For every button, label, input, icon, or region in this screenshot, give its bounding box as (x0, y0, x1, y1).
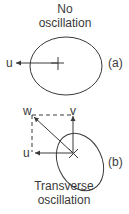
panel-b-u-label: u (23, 146, 30, 160)
panel-b-w-label: w (22, 104, 32, 118)
panel-b: w v u (b) Transverse oscillation (22, 104, 123, 207)
panel-b-label: (b) (108, 155, 123, 169)
panel-a-label: (a) (108, 56, 123, 70)
panel-a-title-line2: oscillation (39, 16, 92, 30)
circular-cross-section (30, 37, 102, 95)
panel-a: No oscillation u (a) (6, 2, 123, 95)
panel-b-v-label: v (70, 104, 76, 118)
panel-b-caption-line2: oscillation (38, 193, 91, 207)
panel-a-u-label: u (6, 56, 13, 70)
panel-b-caption-line1: Transverse (34, 179, 94, 193)
panel-a-title-line1: No (57, 2, 73, 16)
oscillation-diagram: No oscillation u (a) (0, 0, 129, 214)
